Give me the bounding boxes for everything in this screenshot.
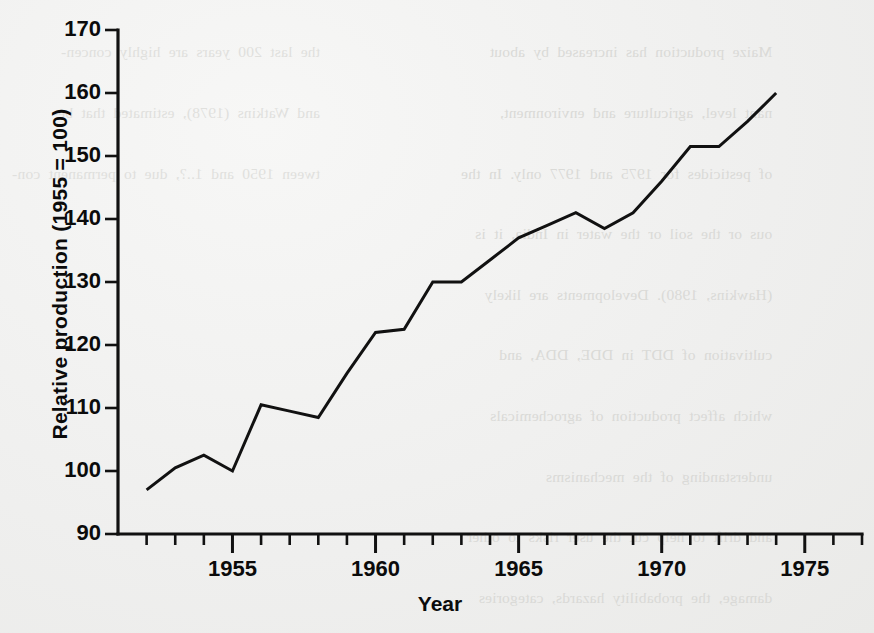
x-tick-label: 1960 — [331, 556, 421, 582]
x-tick-label: 1970 — [617, 556, 707, 582]
x-tick-label: 1955 — [187, 556, 277, 582]
y-tick-label: 170 — [35, 16, 101, 42]
x-axis-ticks — [147, 534, 862, 553]
line-chart-figure: 90100110120130140150160170 1955196019651… — [0, 0, 874, 633]
y-axis-ticks — [105, 30, 118, 534]
scanned-page: the last 200 years are highly concen- an… — [0, 0, 874, 633]
data-series-line — [147, 93, 777, 490]
y-axis-title: Relative production (1955 = 100) — [48, 64, 72, 484]
x-axis-title: Year — [380, 592, 500, 616]
x-tick-label: 1975 — [760, 556, 850, 582]
x-tick-label: 1965 — [474, 556, 564, 582]
y-tick-label: 90 — [35, 520, 101, 546]
chart-canvas — [0, 0, 874, 633]
